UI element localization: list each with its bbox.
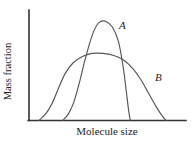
curve-b-path (39, 53, 166, 120)
plot-area (0, 0, 191, 143)
curve-a-path (63, 21, 131, 121)
curves-group (39, 21, 166, 121)
chart-figure: Mass fraction Molecule size A B (0, 0, 191, 143)
